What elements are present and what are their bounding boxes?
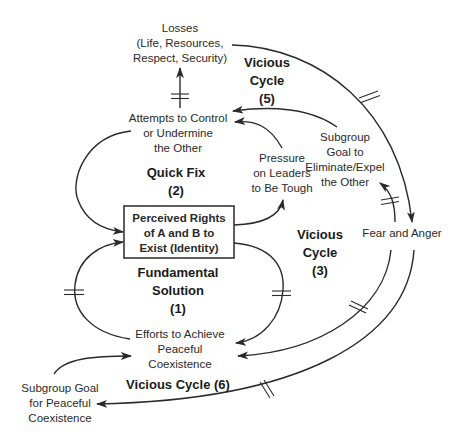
node-subgroup-peaceful: Subgroup Goal for Peaceful Coexistence — [21, 382, 98, 424]
loop-label-line: Cycle — [303, 245, 338, 260]
node-subgroup-eliminate-line: Subgroup — [320, 131, 370, 143]
node-subgroup-eliminate-line: Eliminate/Expel — [305, 161, 384, 173]
node-efforts-line: Peaceful — [158, 343, 203, 355]
loop-label-vicious-cycle-5: Vicious Cycle (5) — [244, 55, 290, 106]
node-pressure: Pressure on Leaders to Be Tough — [251, 152, 312, 194]
node-losses-line: Losses — [162, 22, 199, 34]
edge-subgroup-eliminate-to-attempts — [233, 109, 337, 127]
edge-subgroup-peaceful-to-efforts — [54, 356, 131, 374]
edge-perceived-rights-to-efforts — [234, 243, 283, 343]
loop-label-vicious-cycle-6: Vicious Cycle (6) — [126, 377, 230, 392]
node-attempts-line: the Other — [154, 142, 202, 154]
loop-label-line: Vicious — [244, 55, 290, 70]
node-losses: Losses (Life, Resources, Respect, Securi… — [133, 22, 227, 64]
edge-pressure-to-attempts — [235, 122, 282, 148]
loop-label-line: Fundamental — [138, 265, 219, 280]
edge-perceived-rights-to-pressure — [234, 200, 283, 225]
loop-label-fundamental-solution-1: Fundamental Solution (1) — [138, 265, 219, 316]
loop-label-line: Vicious — [297, 227, 343, 242]
delay-mark — [272, 291, 291, 296]
delay-mark — [381, 197, 399, 205]
loop-label-line: Cycle — [250, 73, 285, 88]
loop-label-line: Quick Fix — [147, 165, 206, 180]
node-pressure-line: Pressure — [259, 152, 305, 164]
node-perceived-rights-line: Perceived Rights — [132, 212, 225, 224]
node-losses-line: Respect, Security) — [133, 52, 227, 64]
loop-label-vicious-cycle-3: Vicious Cycle (3) — [297, 227, 343, 278]
node-fear-anger: Fear and Anger — [362, 227, 441, 239]
loop-label-line: (2) — [168, 183, 184, 198]
node-subgroup-peaceful-line: Coexistence — [28, 412, 91, 424]
node-subgroup-eliminate-line: the Other — [321, 176, 369, 188]
edge-attempts-to-perceived-rights — [76, 131, 131, 232]
node-subgroup-peaceful-line: for Peaceful — [29, 397, 90, 409]
loop-label-line: (5) — [259, 91, 275, 106]
node-attempts-line: Attempts to Control — [129, 112, 227, 124]
node-losses-line: (Life, Resources, — [137, 37, 224, 49]
node-pressure-line: to Be Tough — [251, 182, 312, 194]
node-perceived-rights: Perceived Rights of A and B to Exist (Id… — [124, 206, 234, 258]
node-subgroup-eliminate-line: Goal to — [326, 146, 363, 158]
node-pressure-line: on Leaders — [253, 167, 311, 179]
node-perceived-rights-line: Exist (Identity) — [139, 242, 218, 254]
causal-loop-diagram: Losses (Life, Resources, Respect, Securi… — [0, 0, 459, 447]
node-subgroup-peaceful-line: Subgroup Goal — [21, 382, 98, 394]
node-fear-anger-line: Fear and Anger — [362, 227, 441, 239]
loop-label-quick-fix-2: Quick Fix (2) — [147, 165, 206, 198]
loop-label-line: (3) — [312, 263, 328, 278]
node-efforts-line: Efforts to Achieve — [135, 328, 224, 340]
node-efforts-line: Coexistence — [148, 358, 211, 370]
loop-label-line: (1) — [170, 301, 186, 316]
node-subgroup-eliminate: Subgroup Goal to Eliminate/Expel the Oth… — [305, 131, 384, 188]
node-perceived-rights-line: of A and B to — [144, 227, 215, 239]
loop-label-line: Vicious Cycle (6) — [126, 377, 230, 392]
node-attempts-line: or Undermine — [143, 127, 213, 139]
node-attempts: Attempts to Control or Undermine the Oth… — [129, 112, 227, 154]
delay-mark — [359, 91, 380, 103]
loop-label-line: Solution — [152, 283, 204, 298]
node-efforts: Efforts to Achieve Peaceful Coexistence — [135, 328, 224, 370]
